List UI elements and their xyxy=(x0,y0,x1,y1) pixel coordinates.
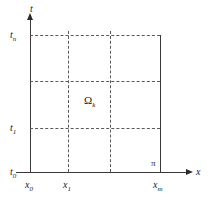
grid-line-vertical-mid xyxy=(110,31,111,172)
domain-label-base: Ω xyxy=(84,94,92,106)
tick-label-x-m-sub: m xyxy=(157,185,162,193)
tick-label-t-1-sub: 1 xyxy=(13,128,17,136)
grid-line-vertical-x1 xyxy=(68,31,69,172)
domain-label-omega-k: Ωk xyxy=(84,95,95,109)
tick-label-x-1: x1 xyxy=(63,180,71,193)
domain-label-sub: k xyxy=(92,101,95,109)
tick-label-t-n: tn xyxy=(10,30,16,43)
t-axis-line xyxy=(30,20,31,173)
boundary-label-pi: π xyxy=(151,159,156,168)
tick-label-x-0: x0 xyxy=(25,180,33,193)
grid-line-horizontal-mid xyxy=(30,81,160,82)
right-boundary-line xyxy=(160,35,161,172)
t-axis-arrowhead xyxy=(27,13,33,20)
x-axis-label: x xyxy=(196,167,200,177)
tick-label-t-0: t0 xyxy=(10,167,16,180)
x-axis-arrowhead xyxy=(186,169,193,175)
tick-label-t-n-sub: n xyxy=(13,35,17,43)
tick-label-x-m: xm xyxy=(153,180,163,193)
grid-domain-figure: t x tn t1 t0 x0 x1 xm π Ωk xyxy=(0,0,210,198)
grid-line-horizontal-tn xyxy=(30,35,160,36)
tick-label-t-0-sub: 0 xyxy=(13,172,17,180)
x-axis-line xyxy=(16,172,188,173)
t-axis-label: t xyxy=(30,4,33,14)
tick-label-t-1: t1 xyxy=(10,123,16,136)
grid-line-horizontal-t1 xyxy=(30,128,160,129)
tick-label-x-0-sub: 0 xyxy=(29,185,33,193)
tick-label-x-1-sub: 1 xyxy=(67,185,71,193)
